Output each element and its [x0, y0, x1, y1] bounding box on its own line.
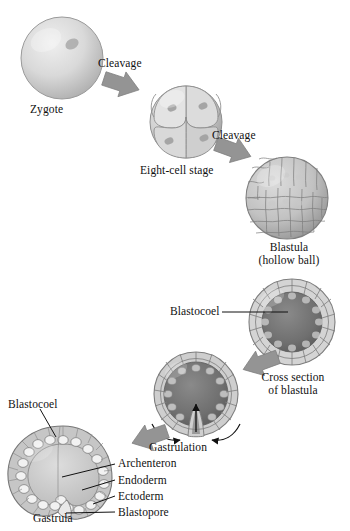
eight-cell-embryo	[150, 86, 222, 158]
stage-label-eight-cell: Eight-cell stage	[140, 164, 213, 178]
callout-label-blastocoel-gastrula: Blastocoel	[8, 398, 58, 412]
callout-label-archenteron: Archenteron	[118, 457, 177, 471]
stage-label-cross-section: Cross section	[245, 371, 341, 385]
callout-label-blastopore: Blastopore	[118, 506, 169, 520]
process-label-cleavage-1: Cleavage	[98, 57, 142, 71]
blastula-cross-section	[222, 279, 335, 365]
blastula-sphere	[246, 157, 328, 239]
embryo-development-figure: Zygote Cleavage Eight-cell stage Cleavag…	[0, 0, 350, 531]
stage-label-zygote: Zygote	[30, 103, 63, 117]
callout-label-endoderm: Endoderm	[118, 474, 167, 488]
stage-label-blastula: Blastula	[250, 241, 328, 255]
callout-label-blastocoel-cross-section: Blastocoel	[170, 305, 220, 319]
gastrula-embryo	[8, 409, 115, 519]
zygote-cell	[21, 17, 103, 99]
stage-sublabel-blastula: (hollow ball)	[244, 254, 334, 268]
callout-label-ectoderm: Ectoderm	[118, 490, 164, 504]
stage-sublabel-cross-section: of blastula	[245, 384, 341, 398]
process-label-cleavage-2: Cleavage	[212, 129, 256, 143]
cleavage-arrow-1	[100, 66, 143, 102]
stage-label-gastrula: Gastrula	[33, 512, 73, 526]
stage-label-gastrulation: Gastrulation	[149, 441, 207, 455]
